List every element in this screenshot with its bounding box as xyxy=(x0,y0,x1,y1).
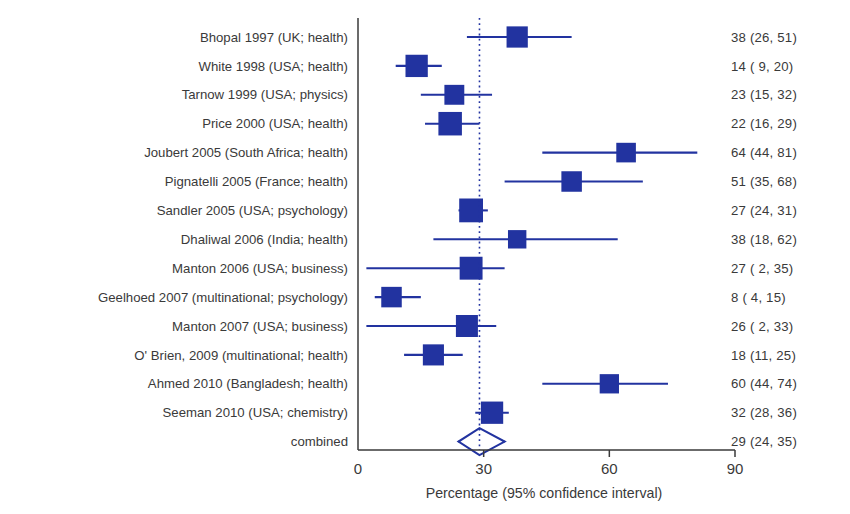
study-label: Pignatelli 2005 (France; health) xyxy=(165,174,348,189)
study-row xyxy=(542,143,697,163)
study-label: Geelhoed 2007 (multinational; psychology… xyxy=(98,290,348,305)
summary-row xyxy=(459,428,505,455)
point-estimate-marker xyxy=(459,199,483,223)
summary-row-label: combined xyxy=(291,434,348,449)
study-row xyxy=(396,55,442,77)
study-row xyxy=(421,85,492,105)
x-axis-tick-label: 60 xyxy=(601,460,618,477)
study-label: Seeman 2010 (USA; chemistry) xyxy=(163,405,348,420)
point-estimate-marker xyxy=(444,85,464,105)
point-estimate-marker xyxy=(438,112,462,136)
estimate-ci-label: 38 (26, 51) xyxy=(731,30,797,45)
point-estimate-marker xyxy=(508,230,526,248)
study-row xyxy=(366,257,504,280)
study-row xyxy=(366,315,496,337)
estimate-ci-label: 26 ( 2, 33) xyxy=(731,319,793,334)
x-axis-tick-label: 30 xyxy=(475,460,492,477)
estimate-ci-label: 27 (24, 31) xyxy=(731,203,797,218)
study-label: Dhaliwal 2006 (India; health) xyxy=(181,232,348,247)
study-row xyxy=(467,26,572,47)
study-label: Price 2000 (USA; health) xyxy=(202,116,348,131)
estimate-ci-label: 23 (15, 32) xyxy=(731,87,797,102)
estimate-ci-label: 32 (28, 36) xyxy=(731,405,797,420)
study-label: O' Brien, 2009 (multinational; health) xyxy=(134,348,348,363)
point-estimate-marker xyxy=(600,374,619,393)
estimate-ci-label: 18 (11, 25) xyxy=(731,348,796,363)
forest-plot-svg: Bhopal 1997 (UK; health)White 1998 (USA;… xyxy=(0,0,850,514)
point-estimate-marker xyxy=(561,171,582,192)
study-label: Ahmed 2010 (Bangladesh; health) xyxy=(148,376,348,391)
estimate-ci-label: 51 (35, 68) xyxy=(731,174,797,189)
x-axis: 0306090 xyxy=(354,18,744,477)
point-estimate-marker xyxy=(423,344,444,365)
estimate-ci-label: 64 (44, 81) xyxy=(731,145,797,160)
point-estimate-marker xyxy=(381,287,402,308)
study-label: Sandler 2005 (USA; psychology) xyxy=(157,203,348,218)
study-row xyxy=(375,287,421,308)
study-row xyxy=(433,230,617,248)
study-row xyxy=(425,112,479,136)
x-axis-tick-label: 90 xyxy=(727,460,744,477)
estimate-ci-label: 22 (16, 29) xyxy=(731,116,797,131)
estimate-ci-label: 8 ( 4, 15) xyxy=(731,290,786,305)
forest-plot-figure: Bhopal 1997 (UK; health)White 1998 (USA;… xyxy=(0,0,850,514)
study-label: Manton 2006 (USA; business) xyxy=(172,261,348,276)
point-estimate-marker xyxy=(507,26,528,47)
point-estimate-marker xyxy=(616,143,636,163)
study-label: Manton 2007 (USA; business) xyxy=(172,319,348,334)
summary-estimate-ci-label: 29 (24, 35) xyxy=(731,434,797,449)
study-row xyxy=(459,199,488,223)
study-row xyxy=(505,171,643,192)
study-row xyxy=(475,402,509,424)
estimate-ci-column: 38 (26, 51)14 ( 9, 20)23 (15, 32)22 (16,… xyxy=(731,30,797,450)
study-label: Tarnow 1999 (USA; physics) xyxy=(182,87,348,102)
study-row xyxy=(542,374,668,393)
estimate-ci-label: 38 (18, 62) xyxy=(731,232,797,247)
estimate-ci-label: 60 (44, 74) xyxy=(731,376,797,391)
x-axis-tick-label: 0 xyxy=(354,460,362,477)
estimate-ci-label: 27 ( 2, 35) xyxy=(731,261,793,276)
study-row xyxy=(404,344,463,365)
study-rows-layer xyxy=(366,26,697,455)
study-label: Joubert 2005 (South Africa; health) xyxy=(144,145,348,160)
summary-diamond-marker xyxy=(459,428,505,455)
point-estimate-marker xyxy=(456,315,478,337)
point-estimate-marker xyxy=(405,55,427,77)
point-estimate-marker xyxy=(481,402,503,424)
study-label: White 1998 (USA; health) xyxy=(198,59,348,74)
x-axis-title: Percentage (95% confidence interval) xyxy=(426,485,663,501)
estimate-ci-label: 14 ( 9, 20) xyxy=(731,59,793,74)
study-label: Bhopal 1997 (UK; health) xyxy=(200,30,348,45)
study-label-column: Bhopal 1997 (UK; health)White 1998 (USA;… xyxy=(98,30,348,450)
